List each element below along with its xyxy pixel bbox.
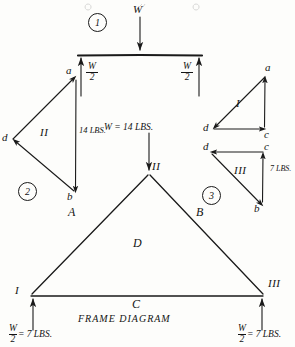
frame-truss-group xyxy=(31,133,263,330)
panel-badge-2: 2 xyxy=(18,182,37,201)
frame-member-label-D: D xyxy=(133,236,142,251)
panel2-edge-a-b xyxy=(76,80,77,190)
panel3-force-label: 7 LBS. xyxy=(270,164,291,173)
frame-right-reaction-label: W 2 = 7 LBS. xyxy=(238,324,281,344)
panel3-lower-point-b: b xyxy=(254,202,260,214)
panel2-point-a: a xyxy=(66,64,72,76)
panel3-upper-point-d: d xyxy=(203,121,209,133)
frame-left-reaction-numerator: W xyxy=(9,323,17,333)
frame-left-reaction-label: W 2 = 7 LBS. xyxy=(9,324,52,344)
panel3-lower-triangle-label: III xyxy=(234,164,247,176)
panel3-edge-c-a xyxy=(265,79,266,127)
panel3-edge-b-c xyxy=(263,155,264,202)
frame-right-reaction-numerator: W xyxy=(238,323,246,333)
frame-right-reaction-value: = 7 LBS. xyxy=(247,329,281,339)
panel3-upper-triangle-label: I xyxy=(236,97,240,109)
panel2-triangle-label: II xyxy=(40,126,48,138)
panel1-left-reaction-denominator: 2 xyxy=(85,73,99,83)
panel2-point-d: d xyxy=(2,131,8,143)
panel1-left-reaction-numerator: W xyxy=(85,62,99,72)
panel1-right-reaction-label: W 2 xyxy=(180,62,194,82)
panel-badge-3: 3 xyxy=(202,186,221,205)
panel3-upper-point-a: a xyxy=(265,61,271,73)
panel2-point-b: b xyxy=(67,190,73,202)
panel1-right-reaction-numerator: W xyxy=(180,62,194,72)
frame-joint-apex: II xyxy=(152,160,160,172)
frame-left-reaction-value: = 7 LBS. xyxy=(18,329,52,339)
panel3-upper-point-c: c xyxy=(264,128,269,140)
frame-member-label-C: C xyxy=(132,297,140,312)
diagram-sheet: 1 W W 2 W 2 2 a d b II 14 LBS. 3 a d c I… xyxy=(0,0,295,347)
frame-right-reaction-denominator: 2 xyxy=(240,334,245,344)
panel1-load-label: W xyxy=(133,3,142,15)
frame-diagram-caption: FRAME DIAGRAM xyxy=(78,313,171,324)
frame-load-label: W = 14 LBS. xyxy=(104,122,153,132)
frame-left-reaction-denominator: 2 xyxy=(11,334,16,344)
frame-joint-left: I xyxy=(15,284,19,296)
panel3-lower-point-c: c xyxy=(264,140,269,152)
panel-badge-1: 1 xyxy=(88,13,107,32)
panel3-lower-point-d: d xyxy=(203,140,209,152)
frame-member-label-B: B xyxy=(196,205,203,220)
panel1-left-reaction-label: W 2 xyxy=(85,62,99,82)
panel1-beam xyxy=(78,55,202,56)
panel2-force-label: 14 LBS. xyxy=(79,125,106,135)
frame-member-A xyxy=(32,175,148,294)
frame-joint-right: III xyxy=(268,277,281,289)
frame-left-reaction-fraction: W 2 xyxy=(9,324,17,344)
diagram-canvas xyxy=(0,0,295,347)
frame-right-reaction-fraction: W 2 xyxy=(238,324,246,344)
panel1-right-reaction-denominator: 2 xyxy=(180,73,194,83)
frame-member-label-A: A xyxy=(68,205,75,220)
